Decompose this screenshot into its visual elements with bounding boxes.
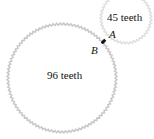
point-a-label: A [109,29,116,40]
small-gear-label: 45 teeth [107,12,142,23]
point-b-label: B [91,45,98,56]
large-gear-label: 96 teeth [47,70,82,81]
